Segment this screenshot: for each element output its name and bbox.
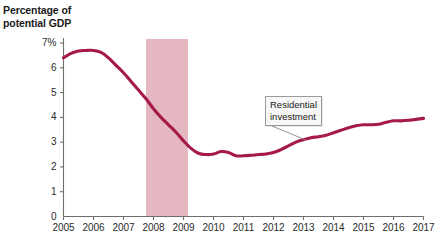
x-tick-label: 2009 (167, 222, 201, 233)
x-tick-label: 2007 (107, 222, 141, 233)
y-tick-label: 1 (31, 186, 57, 197)
x-tick-label: 2015 (347, 222, 381, 233)
x-tick-label: 2010 (197, 222, 231, 233)
leader-line (272, 126, 305, 140)
data-series (64, 50, 424, 156)
tick-marks (60, 43, 424, 220)
y-tick-label: 6 (31, 62, 57, 73)
x-tick-label: 2013 (287, 222, 321, 233)
x-tick-label: 2011 (227, 222, 261, 233)
x-tick-label: 2012 (257, 222, 291, 233)
x-tick-label: 2014 (317, 222, 351, 233)
recession-band (146, 39, 188, 217)
y-tick-label: 3 (31, 136, 57, 147)
plot-area (0, 0, 442, 232)
x-tick-label: 2017 (407, 222, 441, 233)
y-tick-label: 4 (31, 111, 57, 122)
x-tick-label: 2005 (47, 222, 81, 233)
residential-investment-chart: Percentage of potential GDP 7%6543210 20… (0, 0, 442, 232)
y-tick-label: 5 (31, 87, 57, 98)
x-tick-label: 2006 (77, 222, 111, 233)
annotation-line2: investment (270, 111, 317, 123)
annotation-residential-investment: Residential investment (265, 96, 322, 126)
recession-shading (146, 39, 188, 217)
series-line-residential-investment (64, 50, 424, 156)
annotation-leader-line (272, 126, 305, 140)
y-tick-label: 2 (31, 161, 57, 172)
x-tick-label: 2008 (137, 222, 171, 233)
y-tick-label: 7% (31, 37, 57, 48)
y-tick-label: 0 (31, 211, 57, 222)
annotation-line1: Residential (270, 99, 317, 111)
x-tick-label: 2016 (377, 222, 411, 233)
